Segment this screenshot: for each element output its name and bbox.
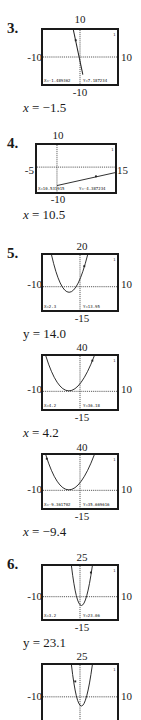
- calculator-screen: 1 X=-9.361702 Y=35.669616: [41, 453, 119, 510]
- ymin-label: -15: [67, 510, 97, 522]
- calculator-screen: 1 X=3.2 Y=23.06: [41, 564, 119, 621]
- ymax-label: 40: [67, 441, 97, 453]
- xmin-label: -10: [18, 590, 42, 602]
- xmax-label: 10: [121, 278, 139, 290]
- calculator-screen: 1 X=2.3 Y=13.95: [41, 253, 119, 312]
- svg-text:1: 1: [113, 258, 115, 262]
- problem-number: 4.: [7, 135, 18, 152]
- graph-plot: 1: [43, 665, 117, 720]
- answer: y = 14.0: [23, 326, 66, 342]
- trace-y-readout: Y=23.06: [83, 613, 100, 618]
- graph-plot: 1: [43, 255, 117, 310]
- xmax-label: 10: [121, 690, 139, 702]
- xmin-label: -10: [18, 278, 42, 290]
- svg-text:1: 1: [113, 359, 115, 363]
- trace-x-readout: X=10.531915: [38, 186, 65, 191]
- trace-y-readout: Y=35.669616: [83, 502, 110, 507]
- trace-x-readout: X=-9.361702: [44, 502, 71, 507]
- ymax-label: 25: [67, 650, 97, 662]
- ymax-label: 25: [67, 551, 97, 563]
- ymin-label: -10: [43, 193, 73, 205]
- xmin-label: -10: [18, 690, 42, 702]
- xmin-label: -10: [18, 483, 42, 495]
- graph-plot: 1: [43, 356, 117, 409]
- problem-number: 6.: [7, 556, 18, 573]
- ymax-label: 40: [67, 341, 97, 353]
- trace-x-readout: X=-1.489362: [44, 78, 71, 83]
- svg-text:1: 1: [113, 458, 115, 462]
- trace-x-readout: X=3.2: [44, 613, 56, 618]
- calculator-screen: 1 X=4.2 Y=36.18: [41, 354, 119, 411]
- trace-y-readout: Y=7.187234: [83, 78, 107, 83]
- ymin-label: -15: [67, 411, 97, 423]
- xmax-label: 10: [121, 483, 139, 495]
- calculator-screen: 1 X=-1.489362 Y=7.187234: [41, 28, 119, 86]
- trace-x-readout: X=4.2: [44, 403, 56, 408]
- xmax-label: 10: [121, 590, 139, 602]
- ymax-label: 10: [43, 129, 73, 141]
- xmin-label: -10: [18, 383, 42, 395]
- graph-plot: 1: [43, 30, 117, 84]
- ymax-label: 10: [65, 13, 95, 25]
- answer: x = 4.2: [23, 425, 59, 441]
- svg-text:1: 1: [111, 148, 113, 152]
- problem-number: 3.: [7, 20, 18, 37]
- svg-text:1: 1: [113, 667, 116, 672]
- graph-plot: 1: [43, 566, 117, 619]
- answer: x = −1.5: [23, 100, 66, 116]
- answer: x = −9.4: [23, 524, 66, 540]
- calculator-screen: 1: [41, 663, 119, 720]
- calculator-screen: 1 X=10.531915 Y=-4.387234: [35, 143, 117, 194]
- graph-plot: 1: [37, 145, 115, 192]
- xmax-label: 15: [117, 164, 139, 176]
- ymax-label: 20: [67, 240, 97, 252]
- trace-y-readout: Y=36.18: [83, 403, 100, 408]
- trace-x-readout: X=2.3: [44, 304, 56, 309]
- ymin-label: -15: [67, 312, 97, 324]
- svg-text:1: 1: [113, 569, 115, 573]
- xmax-label: 10: [121, 51, 139, 63]
- svg-text:1: 1: [113, 33, 115, 37]
- answer: x = 10.5: [23, 207, 65, 223]
- answer: y = 23.1: [23, 635, 66, 651]
- trace-y-readout: Y=-4.387234: [79, 186, 106, 191]
- ymin-label: -10: [65, 86, 95, 98]
- xmax-label: 10: [121, 383, 139, 395]
- trace-y-readout: Y=13.95: [83, 304, 100, 309]
- ymin-label: -15: [67, 621, 97, 633]
- xmin-label: -10: [18, 51, 42, 63]
- xmin-label: -5: [14, 164, 34, 176]
- problem-number: 5.: [7, 245, 18, 262]
- graph-plot: 1: [43, 455, 117, 508]
